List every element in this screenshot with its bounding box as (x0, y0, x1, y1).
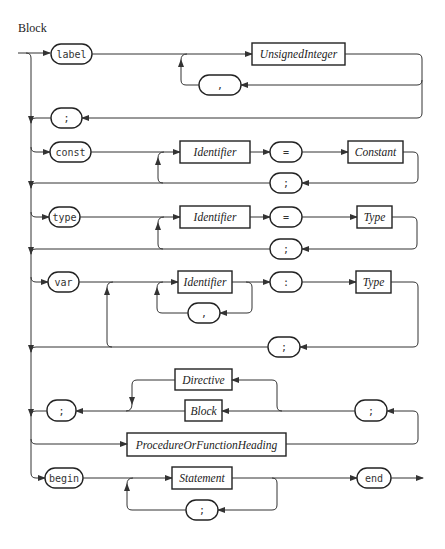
unsigned-integer-text: UnsignedInteger (260, 48, 338, 61)
proc-exit (31, 411, 47, 416)
const-loop-join (158, 152, 164, 158)
const-exit (31, 183, 270, 188)
const-equals-text: = (283, 147, 289, 158)
statement-loop-join (127, 478, 133, 484)
type-loop-join (158, 217, 164, 223)
var-identifier-text: Identifier (183, 276, 227, 289)
var-semicolon-text: ; (281, 342, 287, 353)
type-text: type (52, 212, 76, 223)
statement-text: Statement (179, 472, 225, 484)
var-comma-join (157, 282, 163, 288)
statement-semicolon-text: ; (199, 505, 205, 516)
const-identifier-text: Identifier (193, 146, 237, 159)
const-loop-back (158, 158, 163, 183)
directive-merge (132, 380, 175, 404)
begin-text: begin (49, 473, 79, 484)
comma-join (181, 54, 187, 60)
syntax-diagram: Block label UnsignedInteger , ; const Id… (0, 0, 445, 549)
const-semicolon-text: ; (283, 178, 289, 189)
directive-merge-join (126, 404, 132, 411)
semi-label-back (31, 118, 51, 123)
directive-text: Directive (181, 374, 224, 386)
diagram-title: Block (18, 21, 47, 35)
type-identifier-text: Identifier (193, 211, 237, 224)
var-loop-join (107, 282, 113, 288)
comma-back-line (181, 60, 199, 85)
end-text: end (365, 473, 383, 484)
to-const (31, 147, 50, 152)
constant-text: Constant (355, 146, 397, 158)
var-text: var (54, 277, 72, 288)
semicolon-label-text: ; (63, 113, 69, 124)
var-loop-back (107, 288, 112, 347)
var-comma-text: , (201, 308, 207, 319)
proc-heading-text: ProcedureOrFunctionHeading (135, 439, 278, 452)
to-type (31, 212, 49, 217)
label-loop-line (241, 80, 422, 85)
const-text: const (55, 147, 85, 158)
proc-right-semicolon-text: ; (368, 406, 374, 417)
type-exit (31, 249, 270, 254)
var-exit (31, 347, 268, 352)
comma-text: , (217, 80, 223, 91)
type-equals-text: = (283, 212, 289, 223)
label-text: label (56, 49, 86, 60)
type-loop-back (158, 223, 163, 249)
var-colon-text: : (283, 277, 289, 288)
var-type-text: Type (363, 276, 385, 289)
to-var (31, 277, 48, 282)
to-proc-heading (31, 439, 127, 444)
block-text: Block (190, 405, 217, 417)
heading-to-semi (286, 411, 418, 444)
type-type-text: Type (364, 211, 386, 224)
to-directive (232, 380, 282, 411)
type-semicolon-text: ; (283, 244, 289, 255)
proc-left-semicolon-text: ; (58, 406, 64, 417)
